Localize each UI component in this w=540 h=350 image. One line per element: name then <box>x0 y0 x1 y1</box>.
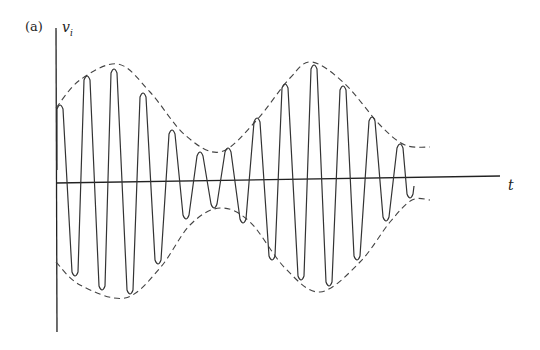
envelope-lower <box>56 198 430 298</box>
envelope-upper <box>56 62 430 152</box>
y-axis-label-main: v <box>62 19 70 35</box>
y-axis-label-subscript: i <box>70 28 73 38</box>
am-waveform-diagram <box>0 0 540 350</box>
y-axis-label: vi <box>62 20 73 38</box>
y-axis <box>56 28 57 332</box>
carrier-waveform <box>57 65 414 294</box>
panel-label: (a) <box>25 20 43 33</box>
x-axis-label: t <box>508 178 514 192</box>
